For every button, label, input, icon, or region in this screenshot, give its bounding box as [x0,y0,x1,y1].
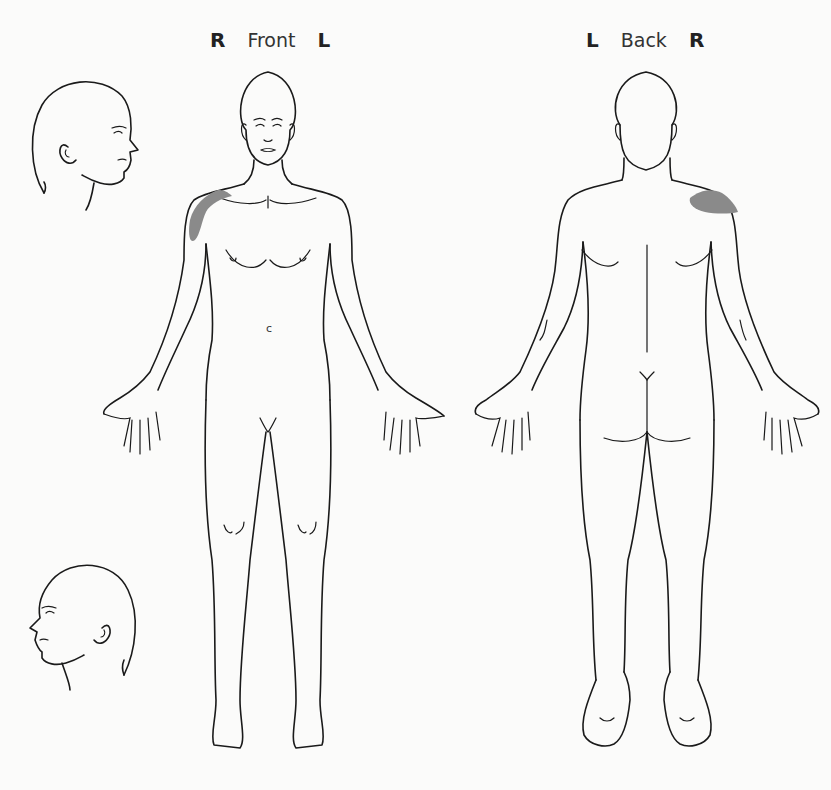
head-profile-left-icon[interactable] [30,565,135,690]
front-shaded-pain-region[interactable] [189,190,232,241]
back-body-outline [475,72,818,746]
abdomen-mark: c [266,322,272,335]
front-body-outline [104,72,444,748]
body-diagram-canvas [0,0,831,790]
back-shaded-pain-region[interactable] [690,190,738,213]
head-profile-right-icon[interactable] [32,82,138,210]
